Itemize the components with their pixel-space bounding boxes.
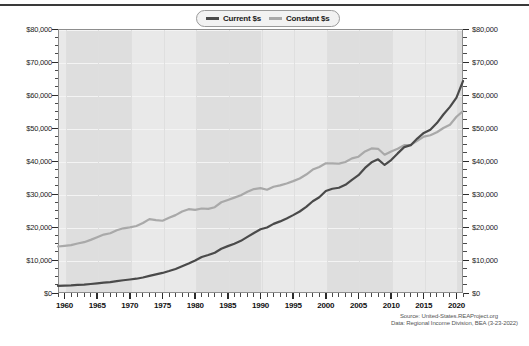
y-tick-minor-left bbox=[55, 243, 59, 244]
x-tick-minor bbox=[463, 293, 464, 297]
x-tick-minor bbox=[208, 293, 209, 297]
y-tick-minor-right bbox=[463, 202, 467, 203]
y-axis-label-right: $70,000 bbox=[472, 58, 524, 67]
y-tick-minor-right bbox=[463, 218, 467, 219]
y-tick-minor-left bbox=[55, 202, 59, 203]
x-tick-major bbox=[194, 293, 195, 299]
y-tick-minor-right bbox=[463, 268, 467, 269]
y-tick-minor-right bbox=[463, 37, 467, 38]
x-tick-major bbox=[390, 293, 391, 299]
x-tick-minor bbox=[77, 293, 78, 297]
y-tick-minor-left bbox=[55, 218, 59, 219]
x-tick-minor bbox=[449, 293, 450, 297]
y-tick-major-right bbox=[463, 194, 469, 195]
legend-swatch-constant bbox=[269, 17, 282, 20]
y-tick-minor-left bbox=[55, 276, 59, 277]
x-tick-major bbox=[325, 293, 326, 299]
x-tick-minor bbox=[155, 293, 156, 297]
x-tick-minor bbox=[214, 293, 215, 297]
x-tick-minor bbox=[351, 293, 352, 297]
y-axis-label-right: $50,000 bbox=[472, 124, 524, 133]
y-tick-minor-right bbox=[463, 210, 467, 211]
y-tick-major-left bbox=[52, 260, 58, 261]
x-tick-minor bbox=[123, 293, 124, 297]
y-tick-minor-right bbox=[463, 136, 467, 137]
y-tick-minor-right bbox=[463, 111, 467, 112]
x-tick-minor bbox=[247, 293, 248, 297]
y-tick-major-right bbox=[463, 95, 469, 96]
y-tick-minor-left bbox=[55, 152, 59, 153]
x-tick-minor bbox=[253, 293, 254, 297]
plot-area bbox=[58, 29, 463, 293]
x-tick-minor bbox=[149, 293, 150, 297]
legend-item-current[interactable]: Current $s bbox=[206, 14, 261, 23]
x-tick-major bbox=[358, 293, 359, 299]
x-tick-minor bbox=[345, 293, 346, 297]
y-tick-major-right bbox=[463, 128, 469, 129]
y-tick-minor-left bbox=[55, 177, 59, 178]
x-tick-minor bbox=[142, 293, 143, 297]
y-tick-minor-right bbox=[463, 45, 467, 46]
x-tick-minor bbox=[201, 293, 202, 297]
y-tick-minor-left bbox=[55, 86, 59, 87]
y-axis-label-right: $30,000 bbox=[472, 190, 524, 199]
x-tick-minor bbox=[384, 293, 385, 297]
x-tick-major bbox=[64, 293, 65, 299]
y-tick-minor-left bbox=[55, 251, 59, 252]
y-tick-minor-left bbox=[55, 119, 59, 120]
x-tick-minor bbox=[365, 293, 366, 297]
y-tick-major-left bbox=[52, 128, 58, 129]
x-tick-major bbox=[423, 293, 424, 299]
y-tick-major-left bbox=[52, 62, 58, 63]
chart-legend[interactable]: Current $s Constant $s bbox=[196, 10, 340, 27]
y-tick-major-left bbox=[52, 194, 58, 195]
series-line-current-s bbox=[58, 81, 463, 286]
y-tick-minor-left bbox=[55, 136, 59, 137]
y-axis-label-right: $20,000 bbox=[472, 223, 524, 232]
x-tick-minor bbox=[84, 293, 85, 297]
x-tick-minor bbox=[332, 293, 333, 297]
x-tick-minor bbox=[188, 293, 189, 297]
x-tick-minor bbox=[110, 293, 111, 297]
x-tick-minor bbox=[371, 293, 372, 297]
y-tick-minor-right bbox=[463, 169, 467, 170]
y-axis-label-left: $0 bbox=[2, 289, 52, 298]
legend-item-constant[interactable]: Constant $s bbox=[269, 14, 330, 23]
series-line-constant-s bbox=[58, 111, 463, 246]
x-tick-minor bbox=[182, 293, 183, 297]
y-tick-minor-left bbox=[55, 235, 59, 236]
y-tick-minor-right bbox=[463, 177, 467, 178]
x-tick-minor bbox=[443, 293, 444, 297]
source-line-2: Data: Regional Income Division, BEA (3-2… bbox=[391, 320, 518, 326]
x-tick-minor bbox=[378, 293, 379, 297]
y-tick-major-right bbox=[463, 227, 469, 228]
y-axis-label-right: $10,000 bbox=[472, 256, 524, 265]
y-tick-minor-left bbox=[55, 103, 59, 104]
y-axis-label-left: $10,000 bbox=[2, 256, 52, 265]
y-tick-minor-right bbox=[463, 86, 467, 87]
y-tick-major-left bbox=[52, 95, 58, 96]
x-tick-minor bbox=[103, 293, 104, 297]
x-tick-minor bbox=[175, 293, 176, 297]
x-tick-minor bbox=[306, 293, 307, 297]
y-tick-major-right bbox=[463, 29, 469, 30]
series-lines bbox=[58, 29, 463, 293]
y-axis-label-left: $30,000 bbox=[2, 190, 52, 199]
x-tick-major bbox=[456, 293, 457, 299]
y-tick-major-right bbox=[463, 293, 469, 294]
y-tick-minor-left bbox=[55, 169, 59, 170]
y-tick-major-left bbox=[52, 161, 58, 162]
x-tick-minor bbox=[417, 293, 418, 297]
x-tick-minor bbox=[312, 293, 313, 297]
x-tick-major bbox=[227, 293, 228, 299]
x-tick-minor bbox=[240, 293, 241, 297]
y-tick-minor-right bbox=[463, 53, 467, 54]
y-tick-major-right bbox=[463, 260, 469, 261]
x-tick-major bbox=[96, 293, 97, 299]
y-tick-minor-right bbox=[463, 70, 467, 71]
y-tick-major-left bbox=[52, 29, 58, 30]
y-axis-label-right: $40,000 bbox=[472, 157, 524, 166]
x-axis-label: 2020 bbox=[436, 301, 476, 310]
y-tick-minor-left bbox=[55, 210, 59, 211]
y-axis-label-right: $80,000 bbox=[472, 25, 524, 34]
